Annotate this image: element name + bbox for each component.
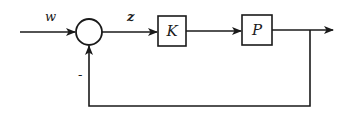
controller-block-label: K [158, 16, 186, 46]
feedback-path [89, 30, 310, 106]
block-diagram: w z - K P [0, 0, 348, 113]
feedback-sign-minus: - [78, 68, 82, 81]
error-label-z: z [127, 10, 134, 23]
summing-junction [76, 19, 102, 45]
input-label-w: w [45, 10, 56, 23]
plant-block-label: P [242, 15, 272, 45]
